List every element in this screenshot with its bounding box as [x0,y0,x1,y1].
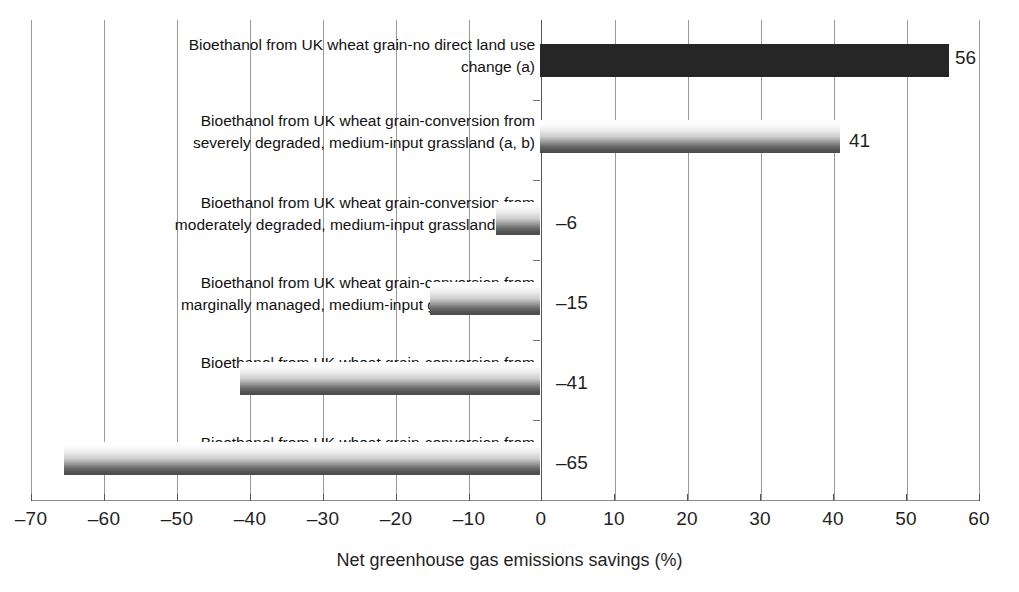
x-axis-tick--30 [323,494,324,501]
category-separator-tick [533,340,540,341]
x-tick-label--20: –20 [380,508,412,530]
x-tick-label-10: 10 [603,508,625,530]
category-separator-tick [533,260,540,261]
x-axis-tick-40 [833,494,834,501]
bar-value-5: –41 [556,372,588,394]
bar-6[interactable] [64,442,540,475]
bar-2[interactable] [540,120,840,153]
bar-4[interactable] [430,282,540,315]
x-axis-tick-60 [979,494,980,501]
x-tick-label--70: –70 [15,508,47,530]
gridline-zero-axis [541,20,542,500]
x-tick-label--30: –30 [307,508,339,530]
x-tick-label--10: –10 [453,508,485,530]
gridline--30 [323,20,324,500]
x-axis-tick--70 [31,494,32,501]
category-separator-tick [533,180,540,181]
gridline--50 [177,20,178,500]
x-axis-baseline [31,500,980,501]
x-tick-label-30: 30 [749,508,771,530]
bar-chart: Bioethanol from UK wheat grain-no direct… [0,0,1019,592]
x-axis-title: Net greenhouse gas emissions savings (%) [0,550,1019,571]
gridline-20 [688,20,689,500]
category-separator-tick [533,420,540,421]
x-tick-label--50: –50 [161,508,193,530]
x-axis-tick-30 [760,494,761,501]
bar-1[interactable] [540,44,949,77]
x-axis-tick--40 [250,494,251,501]
gridline-10 [615,20,616,500]
plot-area [31,20,980,500]
gridline--10 [469,20,470,500]
x-tick-label--40: –40 [234,508,266,530]
gridline--20 [396,20,397,500]
gridline--70 [31,20,32,500]
bar-value-2: 41 [849,130,870,152]
x-axis-tick--20 [396,494,397,501]
category-label-3: Bioethanol from UK wheat grain-conversio… [35,192,535,236]
x-tick-label--60: –60 [88,508,120,530]
category-label-1: Bioethanol from UK wheat grain-no direct… [35,34,535,78]
bar-value-6: –65 [556,452,588,474]
bar-value-3: –6 [556,212,577,234]
x-axis-tick-0 [541,494,542,501]
bar-value-1: 56 [955,47,976,69]
gridline--40 [250,20,251,500]
x-axis-tick--60 [104,494,105,501]
x-axis-tick--10 [469,494,470,501]
gridline-30 [761,20,762,500]
x-tick-label-40: 40 [822,508,844,530]
bar-5[interactable] [240,362,540,395]
x-axis-tick-10 [614,494,615,501]
gridline--60 [104,20,105,500]
gridline-50 [907,20,908,500]
category-label-2: Bioethanol from UK wheat grain-conversio… [35,110,535,154]
x-tick-label-60: 60 [968,508,990,530]
category-separator-tick [533,100,540,101]
x-axis-tick--50 [177,494,178,501]
bar-3[interactable] [496,202,540,235]
gridline-40 [834,20,835,500]
x-tick-label-50: 50 [895,508,917,530]
x-axis-tick-20 [687,494,688,501]
bar-value-4: –15 [556,292,588,314]
gridline-60 [979,20,980,500]
x-axis-tick-50 [906,494,907,501]
x-tick-label-0: 0 [536,508,547,530]
x-tick-label-20: 20 [676,508,698,530]
